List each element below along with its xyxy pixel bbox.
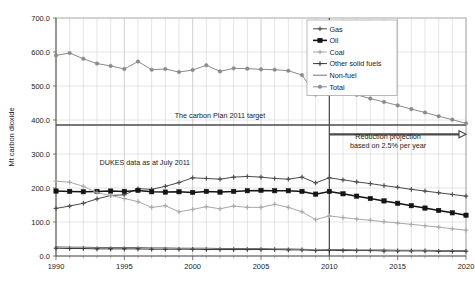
x-tick-label-2015: 2015 bbox=[389, 262, 406, 271]
data-point-total-2008 bbox=[300, 73, 304, 77]
annotation-carbon-plan-target: The carbon Plan 2011 target bbox=[175, 111, 266, 120]
data-point-oil-2017 bbox=[423, 206, 427, 210]
data-point-total-1993 bbox=[95, 62, 99, 66]
annotation-reduction-projection-line2: based on 2.5% per year bbox=[350, 141, 427, 150]
data-point-oil-2010 bbox=[327, 189, 331, 193]
legend-label-coal: Coal bbox=[330, 48, 345, 57]
y-tick-label-200: 200.0 bbox=[31, 184, 50, 193]
data-point-oil-2019 bbox=[450, 211, 454, 215]
data-point-total-2015 bbox=[396, 104, 400, 108]
data-point-oil-2006 bbox=[272, 189, 276, 193]
data-point-total-2004 bbox=[246, 67, 250, 71]
legend-swatch-marker-total bbox=[318, 85, 322, 89]
data-point-total-2003 bbox=[232, 67, 236, 71]
y-tick-label-100: 100.0 bbox=[31, 218, 50, 227]
data-point-oil-1992 bbox=[81, 190, 85, 194]
x-tick-label-2010: 2010 bbox=[321, 262, 338, 271]
data-point-total-2014 bbox=[382, 100, 386, 104]
data-point-oil-2008 bbox=[300, 189, 304, 193]
data-point-total-2016 bbox=[410, 107, 414, 111]
data-point-total-2018 bbox=[437, 114, 441, 118]
data-point-oil-1991 bbox=[67, 189, 71, 193]
legend-box bbox=[307, 20, 397, 96]
data-point-total-2001 bbox=[205, 63, 209, 67]
annotation-dukes-data-note: DUKES data as at July 2011 bbox=[100, 158, 191, 167]
x-tick-label-1990: 1990 bbox=[48, 262, 65, 271]
data-point-total-2020 bbox=[464, 122, 468, 126]
data-point-oil-2015 bbox=[395, 201, 399, 205]
data-point-total-1991 bbox=[68, 51, 72, 55]
data-point-oil-2012 bbox=[354, 194, 358, 198]
line-chart: 0.0100.0200.0300.0400.0500.0600.0700.019… bbox=[0, 0, 475, 284]
x-tick-label-2000: 2000 bbox=[184, 262, 201, 271]
data-point-total-1999 bbox=[177, 70, 181, 74]
x-tick-label-2020: 2020 bbox=[458, 262, 475, 271]
legend-swatch-marker-oil bbox=[318, 38, 322, 42]
legend-label-non-fuel: Non-fuel bbox=[330, 71, 358, 80]
data-point-oil-2003 bbox=[231, 189, 235, 193]
data-point-total-2007 bbox=[287, 69, 291, 73]
data-point-oil-1998 bbox=[163, 190, 167, 194]
data-point-oil-1997 bbox=[149, 190, 153, 194]
y-axis-label: Mt carbon dioxide bbox=[7, 107, 16, 166]
data-point-total-1995 bbox=[123, 67, 127, 71]
legend-label-gas: Gas bbox=[330, 25, 344, 34]
y-tick-label-0: 0.0 bbox=[40, 252, 50, 261]
legend-label-total: Total bbox=[330, 83, 346, 92]
chart-container: 0.0100.0200.0300.0400.0500.0600.0700.019… bbox=[0, 0, 475, 284]
y-tick-label-500: 500.0 bbox=[31, 82, 50, 91]
data-point-total-2002 bbox=[218, 70, 222, 74]
data-point-oil-2002 bbox=[218, 190, 222, 194]
data-point-total-2017 bbox=[423, 111, 427, 115]
legend-label-oil: Oil bbox=[330, 36, 339, 45]
data-point-oil-2018 bbox=[436, 208, 440, 212]
data-point-oil-1999 bbox=[177, 190, 181, 194]
y-tick-label-400: 400.0 bbox=[31, 116, 50, 125]
data-point-oil-2016 bbox=[409, 203, 413, 207]
data-point-total-2019 bbox=[451, 118, 455, 122]
data-point-total-2000 bbox=[191, 68, 195, 72]
data-point-total-2005 bbox=[259, 68, 263, 72]
chart-legend: GasOilCoalOther solid fuelsNon-fuelTotal bbox=[307, 20, 397, 96]
data-point-oil-1995 bbox=[122, 189, 126, 193]
data-point-total-1994 bbox=[109, 64, 113, 68]
data-point-oil-2013 bbox=[368, 196, 372, 200]
data-point-total-1990 bbox=[54, 54, 58, 58]
x-tick-label-2005: 2005 bbox=[253, 262, 270, 271]
x-tick-label-1995: 1995 bbox=[116, 262, 133, 271]
data-point-oil-2009 bbox=[313, 192, 317, 196]
y-tick-label-300: 300.0 bbox=[31, 150, 50, 159]
data-point-oil-2001 bbox=[204, 189, 208, 193]
data-point-total-1996 bbox=[136, 60, 140, 64]
data-point-total-2006 bbox=[273, 68, 277, 72]
data-point-total-2013 bbox=[369, 97, 373, 101]
data-point-oil-1996 bbox=[136, 188, 140, 192]
y-tick-label-700: 700.0 bbox=[31, 14, 50, 23]
data-point-total-1997 bbox=[150, 68, 154, 72]
data-point-oil-1990 bbox=[54, 189, 58, 193]
legend-label-other-solid-fuels: Other solid fuels bbox=[330, 59, 382, 68]
data-point-oil-2005 bbox=[259, 188, 263, 192]
data-point-oil-1994 bbox=[108, 189, 112, 193]
data-point-oil-2000 bbox=[190, 190, 194, 194]
data-point-oil-2020 bbox=[464, 213, 468, 217]
data-point-oil-2011 bbox=[341, 192, 345, 196]
data-point-total-1992 bbox=[82, 57, 86, 61]
data-point-oil-2004 bbox=[245, 189, 249, 193]
data-point-total-1998 bbox=[164, 67, 168, 71]
y-tick-label-600: 600.0 bbox=[31, 48, 50, 57]
data-point-oil-2007 bbox=[286, 189, 290, 193]
data-point-oil-2014 bbox=[382, 199, 386, 203]
